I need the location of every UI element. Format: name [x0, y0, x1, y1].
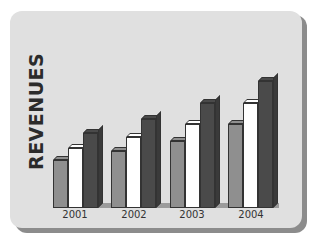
- bar-2001-series-1: [53, 160, 68, 208]
- bar-side-face: [215, 95, 220, 208]
- bar-2004-series-2: [243, 103, 258, 208]
- bar-2002-series-2: [126, 137, 141, 208]
- x-tick-2002: 2002: [114, 209, 154, 220]
- bar-2003-series-1: [170, 141, 185, 208]
- y-axis-label: REVENUES: [25, 53, 47, 170]
- x-tick-2004: 2004: [231, 209, 271, 220]
- bar-side-face: [273, 73, 278, 208]
- bar-2003-series-3: [200, 103, 215, 208]
- bar-side-face: [156, 111, 161, 208]
- x-tick-2001: 2001: [55, 209, 95, 220]
- bar-side-face: [98, 125, 103, 208]
- bar-2004-series-1: [228, 124, 243, 208]
- bar-2001-series-2: [68, 148, 83, 208]
- bar-2001-series-3: [83, 133, 98, 208]
- bar-2003-series-2: [185, 124, 200, 208]
- bar-2002-series-1: [111, 151, 126, 208]
- x-tick-2003: 2003: [172, 209, 212, 220]
- bar-2002-series-3: [141, 119, 156, 208]
- bar-2004-series-3: [258, 81, 273, 208]
